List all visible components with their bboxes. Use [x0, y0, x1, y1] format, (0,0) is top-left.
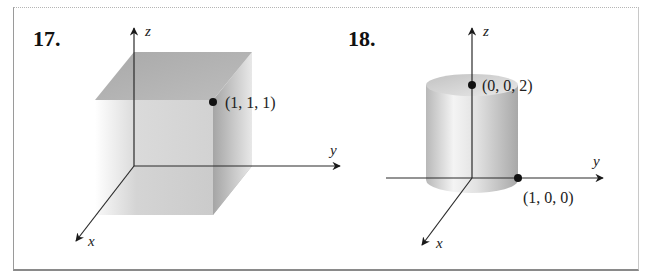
- point-label: (0, 0, 2): [482, 77, 533, 95]
- y-axis-label: y: [328, 142, 337, 158]
- figure-number: 18.: [348, 26, 376, 51]
- point-marker: [514, 174, 522, 182]
- point-marker: [468, 81, 476, 89]
- z-axis-label: z: [144, 23, 151, 39]
- point-marker: [209, 98, 217, 106]
- x-axis-label: x: [87, 233, 95, 249]
- y-axis-label: y: [591, 153, 600, 169]
- point-label: (1, 0, 0): [523, 189, 574, 207]
- cube-solid: [95, 52, 252, 215]
- point-label: (1, 1, 1): [225, 94, 276, 112]
- z-axis-label: z: [482, 23, 489, 39]
- figure-17: 17. z y x (1, 1, 1): [33, 23, 340, 249]
- x-axis-label: x: [435, 235, 443, 251]
- cube-front-face: [95, 100, 213, 215]
- figure-number: 17.: [33, 26, 61, 51]
- figure-18: 18. z y x (0, 0, 2) (1, 0, 0): [348, 23, 603, 251]
